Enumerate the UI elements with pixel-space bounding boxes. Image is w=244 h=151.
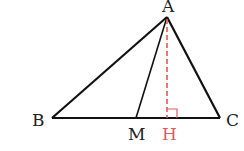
label-h: H xyxy=(162,124,177,144)
right-angle-marker xyxy=(167,109,177,118)
label-a: A xyxy=(161,0,175,16)
label-m: M xyxy=(128,124,145,144)
triangle-diagram: A B C M H xyxy=(0,0,244,151)
side-ac xyxy=(167,17,220,118)
median-am xyxy=(136,17,167,118)
label-c: C xyxy=(226,110,239,130)
label-b: B xyxy=(32,110,45,130)
side-ab xyxy=(52,17,167,118)
